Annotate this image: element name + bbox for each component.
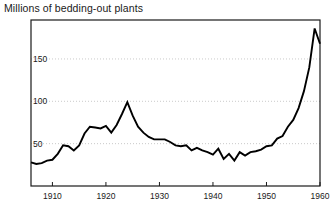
x-tick-label-1910: 1910 xyxy=(43,191,62,201)
line-chart-plot: 50100150 191019201930194019501960 xyxy=(0,0,333,210)
x-tick-label-1920: 1920 xyxy=(96,191,115,201)
y-axis-tick-labels: 50100150 xyxy=(33,54,47,149)
x-tick-label-1930: 1930 xyxy=(150,191,169,201)
y-tick-label-50: 50 xyxy=(33,139,43,149)
plot-frame xyxy=(31,20,320,186)
y-tick-label-100: 100 xyxy=(33,96,47,106)
x-tick-label-1960: 1960 xyxy=(311,191,330,201)
x-axis-tick-labels: 191019201930194019501960 xyxy=(43,191,330,201)
plot-border xyxy=(31,20,320,186)
x-tick-label-1950: 1950 xyxy=(257,191,276,201)
x-axis-ticks xyxy=(52,182,320,186)
chart-figure: Millions of bedding-out plants 50100150 … xyxy=(0,0,333,210)
x-tick-label-1940: 1940 xyxy=(204,191,223,201)
gridlines-group xyxy=(31,59,320,144)
y-tick-label-150: 150 xyxy=(33,54,47,64)
